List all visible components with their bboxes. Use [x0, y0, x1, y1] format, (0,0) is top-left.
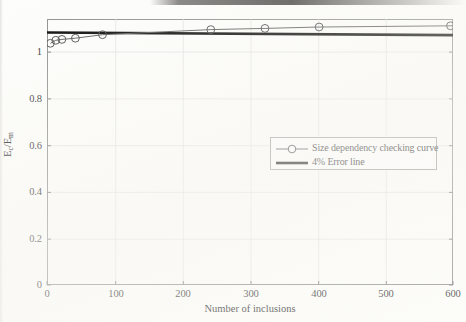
y-axis-title-slash-e: /E — [2, 138, 13, 147]
y-axis-title-e-c: E — [2, 151, 13, 157]
x-tick-label-400: 400 — [305, 288, 333, 299]
legend-entry-error-line: 4% Error line — [275, 154, 364, 168]
x-tick-label-100: 100 — [102, 288, 130, 299]
y-tick-label-1: 1 — [10, 46, 42, 57]
legend-marker-open-circle-line — [275, 141, 309, 153]
x-tick-label-200: 200 — [169, 288, 197, 299]
y-axis-title-sub-m: m — [6, 132, 15, 138]
figure-container: 0 0.2 0.4 0.6 0.8 1 0 100 200 300 400 50… — [0, 0, 466, 322]
legend-label-error-line: 4% Error line — [312, 156, 364, 167]
y-tick-label-0-2: 0.2 — [10, 233, 42, 244]
y-tick-label-0-8: 0.8 — [10, 93, 42, 104]
x-axis-title: Number of inclusions — [47, 303, 453, 314]
x-tick-label-500: 500 — [372, 288, 400, 299]
y-axis-title: Ec/Em — [2, 115, 15, 175]
y-tick-label-0-6: 0.6 — [10, 140, 42, 151]
y-tick-label-0-4: 0.4 — [10, 186, 42, 197]
legend-label-size-dependency: Size dependency checking curve — [312, 142, 438, 153]
legend: Size dependency checking curve 4% Error … — [270, 137, 437, 170]
y-axis-title-sub-c: c — [6, 147, 15, 150]
legend-entry-size-dependency: Size dependency checking curve — [275, 140, 438, 154]
x-tick-label-600: 600 — [439, 288, 466, 299]
x-tick-label-300: 300 — [237, 288, 265, 299]
x-tick-label-0: 0 — [33, 288, 61, 299]
legend-marker-thick-line — [275, 155, 309, 167]
